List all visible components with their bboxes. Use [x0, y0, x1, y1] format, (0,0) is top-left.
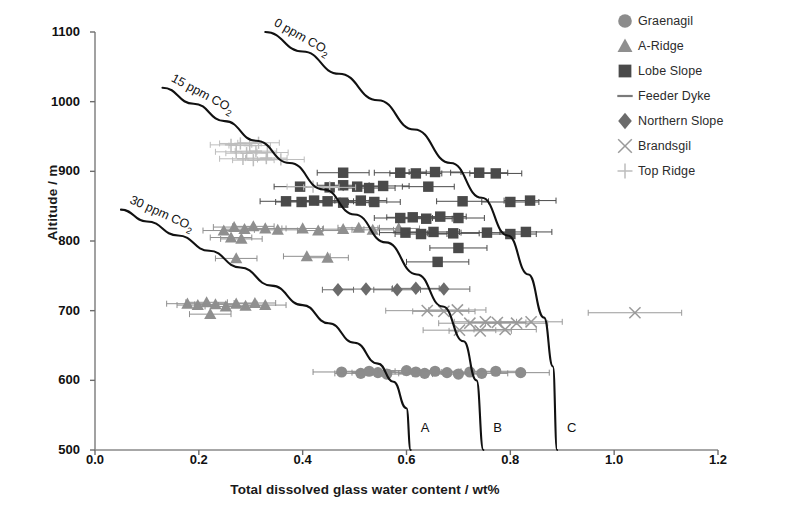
- data-point-diamond: [618, 112, 632, 129]
- legend-item-label: Top Ridge: [638, 164, 695, 178]
- legend-item-brandsgil[interactable]: Brandsgil: [612, 133, 782, 158]
- diamond-icon: [612, 112, 638, 130]
- data-point-square: [400, 227, 410, 237]
- data-point-plus: [260, 152, 272, 164]
- data-point-triangle: [230, 252, 242, 263]
- data-point-circle: [453, 368, 464, 379]
- data-point-triangle: [204, 308, 216, 319]
- data-point-square: [421, 213, 431, 223]
- data-point-square: [369, 197, 379, 207]
- data-point-diamond: [438, 282, 449, 296]
- legend-item-graenagil[interactable]: Graenagil: [612, 8, 782, 33]
- data-point-triangle: [235, 233, 247, 244]
- data-point-diamond: [332, 283, 343, 297]
- series-brandsgil: [386, 304, 682, 336]
- data-point-square: [521, 227, 531, 237]
- legend-item-a-ridge[interactable]: A-Ridge: [612, 33, 782, 58]
- legend-item-northern-slope[interactable]: Northern Slope: [612, 108, 782, 133]
- plus-icon: [612, 162, 638, 180]
- data-point-square: [435, 211, 445, 221]
- legend-item-label: A-Ridge: [638, 39, 684, 53]
- data-point-circle: [441, 367, 452, 378]
- data-point-square: [411, 168, 421, 178]
- data-point-square: [322, 196, 332, 206]
- series-a-ridge: [167, 220, 420, 319]
- legend-item-label: Northern Slope: [638, 114, 723, 128]
- data-point-square: [474, 168, 484, 178]
- legend-item-label: Graenagil: [638, 14, 693, 28]
- data-point-square: [378, 181, 388, 191]
- data-point-triangle: [618, 38, 633, 52]
- data-point-square: [430, 167, 440, 177]
- data-point-plus: [261, 146, 273, 158]
- data-point-square: [338, 168, 348, 178]
- legend-item-label: Feeder Dyke: [638, 89, 711, 103]
- curve-end-label-A: A: [421, 420, 430, 435]
- data-point-square: [432, 257, 442, 267]
- triangle-icon: [612, 37, 638, 55]
- solubility-curve-C: [265, 32, 557, 450]
- series-graenagil: [313, 365, 549, 380]
- data-point-triangle: [181, 298, 193, 309]
- data-point-triangle: [297, 222, 309, 233]
- data-point-triangle: [201, 296, 213, 307]
- curve-label-A: 30 ppm CO2: [126, 193, 196, 237]
- data-point-square: [453, 213, 463, 223]
- data-point-circle: [401, 365, 412, 376]
- data-point-circle: [336, 366, 347, 377]
- legend-item-feeder-dyke[interactable]: Feeder Dyke: [612, 83, 782, 108]
- cross-icon: [612, 137, 638, 155]
- series-lobe-slope: [260, 167, 556, 267]
- data-point-diamond: [360, 282, 371, 296]
- data-point-triangle: [249, 297, 261, 308]
- legend: GraenagilA-RidgeLobe SlopeFeeder DykeNor…: [612, 8, 782, 183]
- data-point-plus: [618, 163, 633, 178]
- data-point-square: [356, 195, 366, 205]
- data-point-triangle: [259, 299, 271, 310]
- data-point-square: [525, 195, 535, 205]
- data-point-square: [428, 227, 438, 237]
- data-point-square: [281, 196, 291, 206]
- data-point-diamond: [392, 283, 403, 297]
- circle-icon: [612, 12, 638, 30]
- legend-item-label: Lobe Slope: [638, 64, 702, 78]
- dash-icon: [612, 87, 638, 105]
- data-point-square: [448, 228, 458, 238]
- data-point-square: [453, 243, 463, 253]
- data-point-square: [416, 229, 426, 239]
- data-point-square: [395, 168, 405, 178]
- legend-item-top-ridge[interactable]: Top Ridge: [612, 158, 782, 183]
- data-point-diamond: [410, 282, 421, 296]
- data-point-square: [309, 195, 319, 205]
- data-point-cross: [618, 139, 632, 153]
- legend-item-label: Brandsgil: [638, 139, 691, 153]
- data-point-square: [491, 168, 501, 178]
- data-point-circle: [429, 366, 440, 377]
- chart-root: Altitude / m Total dissolved glass water…: [0, 0, 785, 517]
- data-point-triangle: [259, 222, 271, 233]
- data-point-circle: [476, 368, 487, 379]
- data-point-square: [408, 212, 418, 222]
- data-point-square: [482, 227, 492, 237]
- data-point-square: [619, 64, 632, 77]
- data-point-triangle: [353, 222, 365, 233]
- curve-end-label-B: B: [493, 420, 502, 435]
- legend-item-lobe-slope[interactable]: Lobe Slope: [612, 58, 782, 83]
- data-point-triangle: [321, 252, 333, 263]
- data-point-square: [423, 181, 433, 191]
- data-point-circle: [515, 367, 526, 378]
- data-point-square: [457, 196, 467, 206]
- data-point-square: [505, 197, 515, 207]
- square-icon: [612, 62, 638, 80]
- data-point-circle: [618, 14, 632, 28]
- solubility-curve-A: [121, 210, 411, 450]
- series-northern-slope: [322, 282, 469, 297]
- data-point-square: [364, 183, 374, 193]
- curve-end-label-C: C: [567, 420, 576, 435]
